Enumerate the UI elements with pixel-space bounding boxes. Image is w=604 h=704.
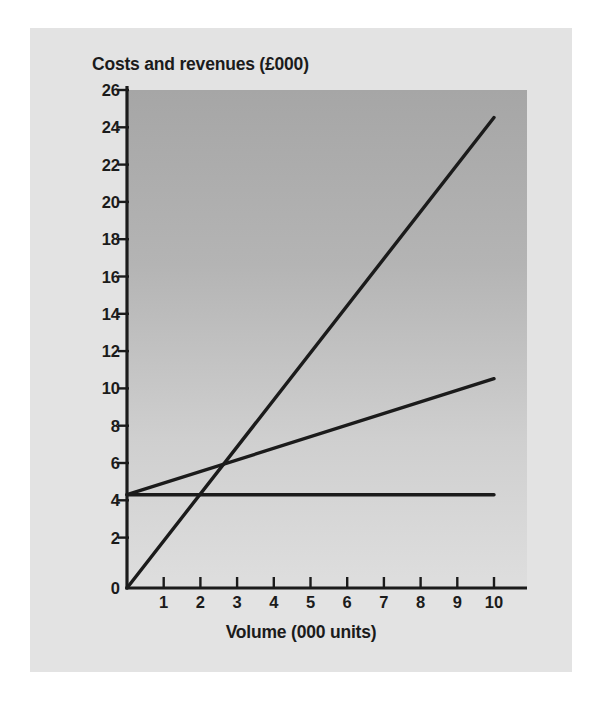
x-tick-label: 3 xyxy=(217,594,257,611)
x-tick-label: 7 xyxy=(364,594,404,611)
x-tick-label: 9 xyxy=(437,594,477,611)
x-tick-label: 5 xyxy=(291,594,331,611)
x-tick-label: 2 xyxy=(180,594,220,611)
x-tick-label: 8 xyxy=(401,594,441,611)
x-tick-label: 4 xyxy=(254,594,294,611)
figure-panel: Costs and revenues (£000) xyxy=(30,28,572,672)
x-axis-title: Volume (000 units) xyxy=(30,622,572,643)
x-tick-label: 6 xyxy=(327,594,367,611)
plot-area: 26 24 22 20 18 16 14 12 10 8 6 4 2 0 1 2… xyxy=(30,28,572,672)
x-tick-label: 10 xyxy=(474,594,514,611)
x-axis-tick-labels: 1 2 3 4 5 6 7 8 9 10 xyxy=(30,28,572,672)
x-tick-label: 1 xyxy=(144,594,184,611)
